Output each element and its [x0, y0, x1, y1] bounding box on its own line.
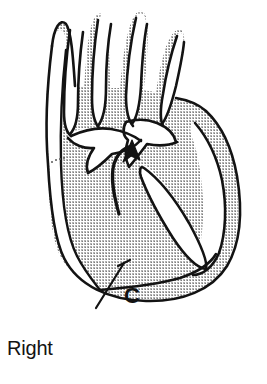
heart-cross-section-illustration: [0, 0, 267, 384]
figure-root: Right ventricular hypertrophy C: [0, 0, 267, 384]
panel-letter-c: C: [124, 283, 140, 309]
